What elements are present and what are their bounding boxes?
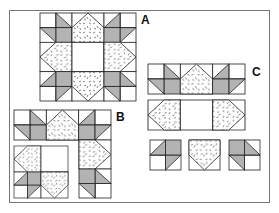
panel-c-row-2 bbox=[148, 100, 245, 130]
point-unit bbox=[72, 13, 104, 42]
corner-unit bbox=[104, 13, 136, 42]
panel-b-right-column bbox=[79, 140, 111, 198]
corner-unit bbox=[40, 72, 72, 101]
panel-b-top-row bbox=[14, 110, 111, 140]
corner-unit bbox=[40, 13, 72, 42]
label-b: B bbox=[116, 111, 125, 123]
point-unit bbox=[72, 72, 104, 101]
panel-c-row-3-left bbox=[150, 140, 181, 170]
center-unit bbox=[72, 42, 104, 71]
panel-a-block bbox=[40, 13, 136, 101]
point-unit bbox=[40, 42, 72, 71]
panel-c-row-3-right bbox=[229, 140, 260, 170]
point-unit bbox=[104, 42, 136, 71]
label-a: A bbox=[141, 14, 150, 26]
panel-c-row-3-middle bbox=[189, 140, 220, 170]
panel-c-row-1 bbox=[148, 64, 245, 94]
label-c: C bbox=[252, 66, 261, 78]
corner-unit bbox=[104, 72, 136, 101]
panel-b-lower-left bbox=[14, 146, 68, 198]
